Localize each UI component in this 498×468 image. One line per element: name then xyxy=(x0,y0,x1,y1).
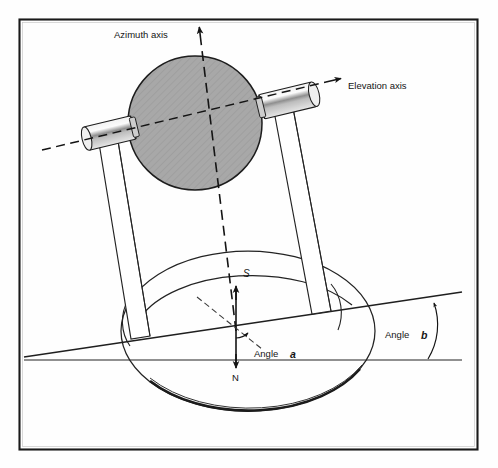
rotating-disc xyxy=(128,56,262,190)
support-leg-right xyxy=(274,108,331,314)
angle-b-arc xyxy=(428,303,438,359)
elevation-axis-arrow xyxy=(326,79,341,83)
figure-canvas: Azimuth axis Elevation axis S N Angle a … xyxy=(0,0,498,468)
elevation-axis-label: Elevation axis xyxy=(348,80,407,91)
angle-a-label: Angle xyxy=(254,348,278,359)
angle-a-symbol: a xyxy=(290,348,296,360)
north-label: N xyxy=(232,372,239,383)
bearing-left xyxy=(79,115,140,152)
azimuth-axis-label: Azimuth axis xyxy=(114,29,168,40)
technical-diagram-svg: Azimuth axis Elevation axis S N Angle a … xyxy=(0,0,498,468)
angle-b-label: Angle xyxy=(385,329,409,340)
south-label: S xyxy=(243,268,250,279)
azimuth-axis-arrow xyxy=(199,27,201,42)
angle-a-arc xyxy=(236,333,248,338)
angle-b-symbol: b xyxy=(421,329,428,341)
incline-line xyxy=(24,292,462,357)
